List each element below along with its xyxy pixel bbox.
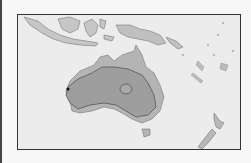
new-zealand	[198, 113, 224, 149]
left-edge-strip	[0, 0, 2, 163]
new-guinea	[116, 25, 183, 49]
map-canvas	[18, 15, 240, 149]
center-ellipse-marker	[120, 84, 132, 94]
indonesia-islands	[24, 17, 114, 46]
tasmania	[142, 129, 150, 137]
point-marker	[67, 88, 70, 91]
map-frame	[17, 14, 241, 150]
pacific-islands	[182, 22, 234, 83]
